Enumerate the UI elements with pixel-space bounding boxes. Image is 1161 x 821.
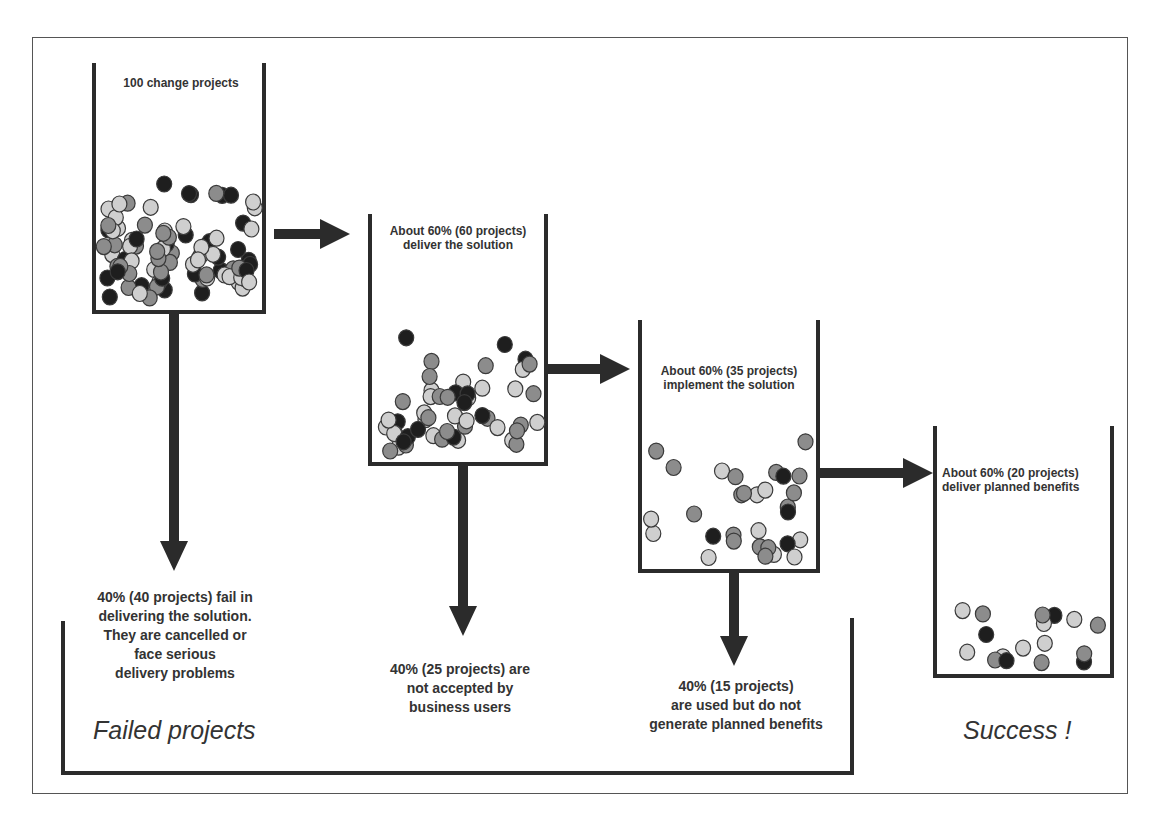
project-ball — [751, 523, 766, 539]
ball-group-3 — [644, 434, 813, 566]
project-ball — [459, 413, 474, 429]
funnel-diagram — [0, 0, 1161, 821]
project-ball — [156, 225, 171, 241]
project-ball — [786, 485, 801, 501]
project-ball — [475, 408, 490, 424]
project-ball — [176, 219, 191, 235]
project-ball — [1037, 635, 1052, 651]
project-ball — [646, 526, 661, 542]
project-ball — [182, 186, 197, 202]
arrow-right-icon — [274, 219, 350, 249]
project-ball — [490, 420, 505, 436]
project-ball — [1077, 646, 1092, 662]
project-ball — [687, 506, 702, 522]
stage-2-label: About 60% (60 projects) deliver the solu… — [372, 224, 544, 252]
project-ball — [666, 460, 681, 476]
project-ball — [787, 549, 802, 565]
project-ball — [1034, 655, 1049, 671]
project-ball — [424, 353, 439, 369]
project-ball — [199, 267, 214, 283]
project-ball — [706, 528, 721, 544]
project-ball — [209, 230, 224, 246]
project-ball — [246, 194, 261, 210]
stage-4-label: About 60% (20 projects) deliver planned … — [938, 466, 1114, 494]
project-ball — [399, 330, 414, 346]
project-ball — [101, 218, 116, 234]
project-ball — [143, 199, 158, 215]
success-label: Success ! — [963, 716, 1071, 745]
project-ball — [191, 252, 206, 268]
project-ball — [1067, 611, 1082, 627]
project-ball — [1035, 607, 1050, 623]
arrow-down-icon — [449, 464, 477, 636]
project-ball — [975, 606, 990, 622]
project-ball — [110, 264, 125, 280]
failure-2-label: 40% (25 projects) are not accepted by bu… — [370, 660, 550, 717]
project-ball — [1016, 640, 1031, 656]
ball-group-2 — [378, 330, 544, 459]
project-ball — [497, 337, 512, 353]
project-ball — [649, 443, 664, 459]
stage-3-label: About 60% (35 projects) implement the so… — [642, 364, 816, 392]
project-ball — [644, 511, 659, 527]
project-ball — [478, 358, 493, 374]
arrow-right-icon — [818, 458, 933, 488]
project-ball — [999, 653, 1014, 669]
failure-3-label: 40% (15 projects) are used but do not ge… — [630, 677, 842, 734]
project-ball — [701, 550, 716, 566]
project-ball — [781, 504, 796, 520]
project-ball — [526, 386, 541, 402]
project-ball — [798, 434, 813, 450]
project-ball — [244, 221, 259, 237]
project-ball — [132, 286, 147, 302]
project-ball — [792, 468, 807, 484]
project-ball — [979, 627, 994, 643]
project-ball — [508, 381, 523, 397]
ball-group-1 — [96, 176, 262, 306]
project-ball — [395, 394, 410, 410]
project-ball — [157, 176, 172, 192]
project-ball — [726, 533, 741, 549]
bucket-4 — [935, 426, 1112, 676]
project-ball — [776, 468, 791, 484]
project-ball — [440, 389, 455, 405]
project-ball — [1090, 617, 1105, 633]
project-ball — [960, 644, 975, 660]
project-ball — [530, 414, 545, 430]
project-ball — [737, 485, 752, 501]
project-ball — [231, 242, 246, 258]
project-ball — [242, 274, 257, 290]
arrow-down-icon — [160, 312, 188, 571]
project-ball — [440, 424, 455, 440]
project-ball — [396, 434, 411, 450]
project-ball — [102, 289, 117, 305]
project-ball — [224, 187, 239, 203]
project-ball — [381, 412, 396, 428]
arrow-down-icon — [720, 571, 748, 666]
project-ball — [137, 217, 152, 233]
project-ball — [422, 369, 437, 385]
project-ball — [510, 423, 525, 439]
project-ball — [475, 380, 490, 396]
ball-group-4 — [955, 603, 1105, 671]
project-ball — [728, 469, 743, 485]
arrow-right-icon — [546, 354, 630, 384]
project-ball — [758, 548, 773, 564]
project-ball — [150, 243, 165, 259]
stage-1-label: 100 change projects — [96, 76, 266, 90]
project-ball — [955, 603, 970, 619]
project-ball — [129, 231, 144, 247]
project-ball — [112, 196, 127, 212]
project-ball — [522, 356, 537, 372]
project-ball — [457, 395, 472, 411]
failed-projects-label: Failed projects — [93, 716, 256, 745]
project-ball — [758, 482, 773, 498]
project-ball — [96, 239, 111, 255]
project-ball — [421, 410, 436, 426]
project-ball — [209, 185, 224, 201]
project-ball — [715, 463, 730, 479]
project-ball — [383, 443, 398, 459]
failure-1-label: 40% (40 projects) fail in delivering the… — [70, 588, 280, 683]
